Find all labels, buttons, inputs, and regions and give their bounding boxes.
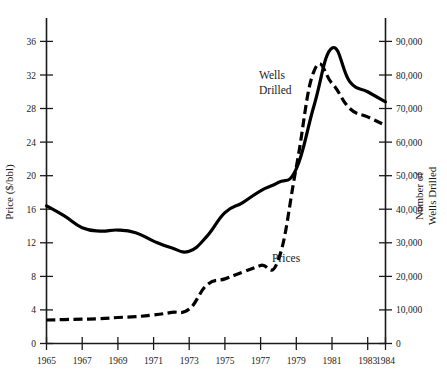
y-tick-label: 32 xyxy=(27,71,37,81)
x-tick-label: 1967 xyxy=(73,356,92,366)
chart-svg: 36 32 28 24 20 16 12 8 4 0 Price ($/bbl) xyxy=(0,0,447,376)
wells-drilled-label-line2: Drilled xyxy=(259,84,292,96)
x-tick-label: 1981 xyxy=(323,356,342,366)
y2-tick-label: 60,000 xyxy=(396,138,422,148)
right-axis-title-line2: Wells Drilled xyxy=(426,166,438,225)
x-tick-label: 1973 xyxy=(180,356,199,366)
y-tick-label: 24 xyxy=(27,138,37,148)
x-tick-label: 1983 xyxy=(358,356,377,366)
x-tick-label: 1984 xyxy=(376,356,395,366)
x-tick-label: 1971 xyxy=(144,356,163,366)
left-axis-title: Price ($/bbl) xyxy=(3,164,16,220)
x-tick-label: 1965 xyxy=(37,356,56,366)
y-tick-label: 36 xyxy=(27,37,37,47)
y2-tick-label: 70,000 xyxy=(396,104,422,114)
x-tick-label: 1969 xyxy=(108,356,127,366)
y2-tick-label: 20,000 xyxy=(396,272,422,282)
y-tick-label: 16 xyxy=(27,205,37,215)
y-tick-label: 0 xyxy=(31,339,36,349)
y2-tick-label: 10,000 xyxy=(396,305,422,315)
x-tick-label: 1979 xyxy=(287,356,306,366)
y2-tick-label: 80,000 xyxy=(396,71,422,81)
oil-price-wells-chart: 36 32 28 24 20 16 12 8 4 0 Price ($/bbl) xyxy=(0,0,447,376)
y-tick-label: 12 xyxy=(27,238,37,248)
y2-tick-label: 30,000 xyxy=(396,238,422,248)
prices-label: Prices xyxy=(272,252,301,264)
right-axis-title-line1: Number of xyxy=(413,172,425,220)
wells-drilled-label-line1: Wells xyxy=(259,69,285,81)
y-tick-label: 4 xyxy=(31,305,36,315)
x-tick-label: 1975 xyxy=(215,356,234,366)
y-tick-label: 8 xyxy=(31,272,36,282)
y-tick-label: 20 xyxy=(27,171,37,181)
y-tick-label: 28 xyxy=(27,104,37,114)
y2-tick-label: 0 xyxy=(396,339,401,349)
x-tick-label: 1977 xyxy=(251,356,270,366)
y2-tick-label: 90,000 xyxy=(396,37,422,47)
